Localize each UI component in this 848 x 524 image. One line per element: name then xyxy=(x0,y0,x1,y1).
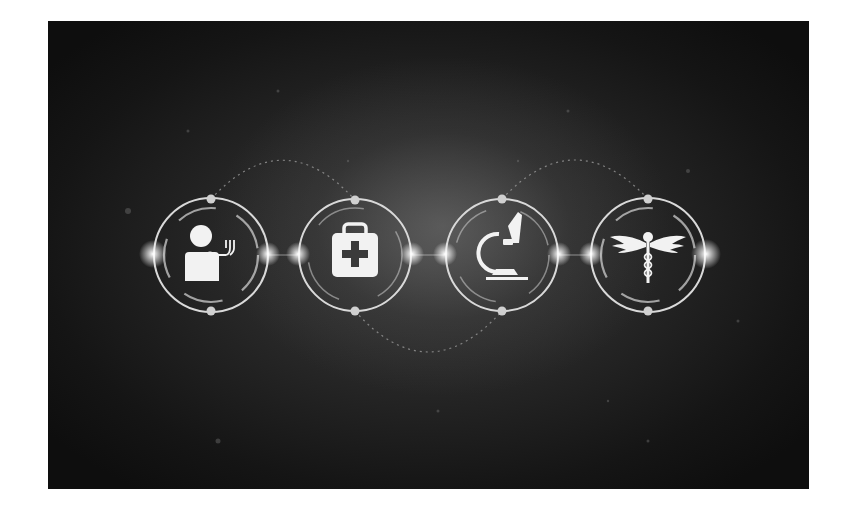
first-aid-kit-icon xyxy=(332,224,378,277)
microscope-icon xyxy=(478,212,528,280)
ring-microscope xyxy=(446,199,558,311)
medical-icons-graphic xyxy=(48,21,809,489)
medical-banner-image xyxy=(48,21,809,489)
caduceus-icon xyxy=(610,232,686,283)
doctor-icon xyxy=(185,225,234,281)
